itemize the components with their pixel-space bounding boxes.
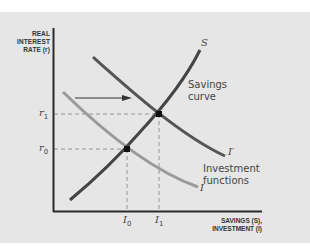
y-axis-label-line: REAL [4,30,50,38]
annotation-line: Savings [188,79,227,91]
x-axis-label: SAVINGS (S), INVESTMENT (I) [196,217,262,233]
investment-i-label: I [200,182,204,193]
equilibrium-point-initial [124,146,130,152]
savings-curve [70,50,200,200]
annotation-line: curve [188,91,227,103]
x-axis-label-line: INVESTMENT (I) [196,225,262,233]
investment-functions-annotation: Investment functions [203,163,260,187]
y-axis-label: REAL INTEREST RATE (r) [4,30,50,54]
y-axis-label-line: INTEREST [4,38,50,46]
y-axis-label-line: RATE (r) [4,46,50,54]
annotation-line: functions [203,175,260,187]
x-tick-i0: I0 [123,214,131,228]
x-axis-label-line: SAVINGS (S), [196,217,262,225]
shift-arrow-icon [75,95,132,101]
savings-curve-s-label: S [201,37,208,48]
investment-curve-i-prime [93,57,225,156]
y-tick-r1: r1 [39,107,48,121]
savings-curve-annotation: Savings curve [188,79,227,103]
y-tick-r0: r0 [39,142,48,156]
annotation-line: Investment [203,163,260,175]
investment-i-prime-label: I′ [228,146,234,157]
x-tick-i1: I1 [155,214,163,228]
equilibrium-point-new [156,111,162,117]
investment-curve-i [63,92,198,187]
